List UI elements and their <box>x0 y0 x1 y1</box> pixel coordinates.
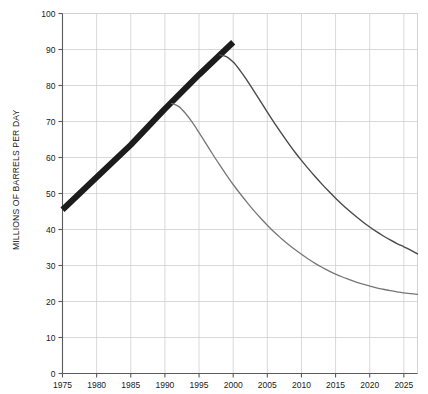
x-tick-label: 2000 <box>224 380 243 390</box>
y-tick-label: 0 <box>51 369 56 379</box>
y-tick-label: 90 <box>46 45 56 55</box>
x-tick-label: 1975 <box>53 380 72 390</box>
x-tick-label: 1980 <box>87 380 106 390</box>
y-tick-label: 70 <box>46 117 56 127</box>
y-tick-label: 80 <box>46 81 56 91</box>
chart-canvas: 1975198019851990199520002005201020152020… <box>0 0 428 394</box>
y-tick-label: 20 <box>46 297 56 307</box>
x-tick-label: 2025 <box>394 380 413 390</box>
y-tick-label: 50 <box>46 189 56 199</box>
y-tick-label: 30 <box>46 261 56 271</box>
x-tick-label: 1995 <box>190 380 209 390</box>
x-tick-label: 2005 <box>258 380 277 390</box>
y-axis-title: MILLIONS OF BARRELS PER DAY <box>11 109 21 250</box>
x-tick-label: 2020 <box>360 380 379 390</box>
x-tick-label: 1985 <box>121 380 140 390</box>
y-tick-label: 100 <box>41 9 55 19</box>
x-tick-label: 1990 <box>155 380 174 390</box>
x-tick-label: 2015 <box>326 380 345 390</box>
y-tick-label: 60 <box>46 153 56 163</box>
y-tick-label: 40 <box>46 225 56 235</box>
y-tick-label: 10 <box>46 333 56 343</box>
x-tick-label: 2010 <box>292 380 311 390</box>
oil-production-chart: 1975198019851990199520002005201020152020… <box>0 0 428 394</box>
